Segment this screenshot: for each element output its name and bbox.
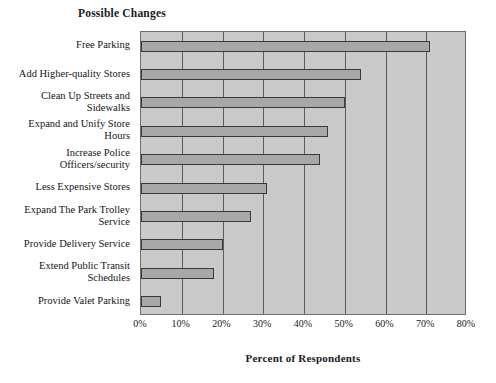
category-label-line: Clean Up Streets and (0, 90, 130, 102)
x-tick-label: 30% (253, 318, 271, 329)
category-label-line: Officers/security (0, 159, 130, 171)
x-axis-tick-labels: 0%10%20%30%40%50%60%70%80% (140, 318, 466, 334)
bar (141, 154, 320, 165)
category-label-line: Sidewalks (0, 102, 130, 114)
bar (141, 296, 161, 307)
bar-row (141, 32, 465, 60)
chart-title: Possible Changes (78, 7, 166, 19)
category-label-line: Add Higher-quality Stores (0, 68, 130, 80)
x-tick-label: 60% (375, 318, 393, 329)
category-label: Expand The Park TrolleyService (0, 204, 130, 228)
category-label-line: Provide Delivery Service (0, 238, 130, 250)
category-label-line: Expand and Unify Store (0, 118, 130, 130)
bar-row (141, 259, 465, 287)
category-label-line: Hours (0, 130, 130, 142)
x-axis-title: Percent of Respondents (140, 352, 466, 364)
category-label-line: Service (0, 216, 130, 228)
category-label-line: Provide Valet Parking (0, 295, 130, 307)
bar-row (141, 89, 465, 117)
category-label: Provide Valet Parking (0, 295, 130, 307)
bar (141, 211, 251, 222)
bars-layer (141, 32, 465, 314)
bar-row (141, 117, 465, 145)
bar-row (141, 174, 465, 202)
plot-area (140, 31, 466, 315)
x-tick-label: 80% (457, 318, 475, 329)
bar (141, 183, 267, 194)
category-label-line: Extend Public Transit (0, 260, 130, 272)
category-label: Expand and Unify StoreHours (0, 118, 130, 142)
category-label: Extend Public TransitSchedules (0, 260, 130, 284)
bar-row (141, 202, 465, 230)
category-label: Clean Up Streets andSidewalks (0, 90, 130, 114)
x-tick-label: 20% (212, 318, 230, 329)
category-label-line: Increase Police (0, 147, 130, 159)
bar-row (141, 288, 465, 316)
category-label: Increase PoliceOfficers/security (0, 147, 130, 171)
bar (141, 69, 361, 80)
bar (141, 239, 223, 250)
bar-row (141, 146, 465, 174)
category-label: Provide Delivery Service (0, 238, 130, 250)
category-label-line: Schedules (0, 272, 130, 284)
bar (141, 268, 214, 279)
category-label: Add Higher-quality Stores (0, 68, 130, 80)
category-label-line: Less Expensive Stores (0, 181, 130, 193)
category-label: Less Expensive Stores (0, 181, 130, 193)
x-tick-label: 10% (172, 318, 190, 329)
x-tick-label: 40% (294, 318, 312, 329)
category-label-line: Expand The Park Trolley (0, 204, 130, 216)
x-tick-label: 70% (416, 318, 434, 329)
category-label: Free Parking (0, 39, 130, 51)
bar-row (141, 231, 465, 259)
bar-chart: Possible Changes Free ParkingAdd Higher-… (0, 0, 496, 383)
category-label-line: Free Parking (0, 39, 130, 51)
bar-row (141, 60, 465, 88)
bar (141, 126, 328, 137)
x-tick-label: 0% (133, 318, 146, 329)
x-tick-label: 50% (335, 318, 353, 329)
bar (141, 41, 430, 52)
bar (141, 97, 345, 108)
category-axis-labels: Free ParkingAdd Higher-quality StoresCle… (0, 31, 135, 315)
